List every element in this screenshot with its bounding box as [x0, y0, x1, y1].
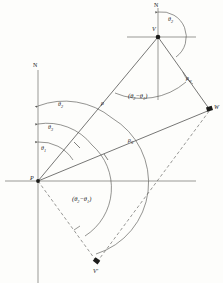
rho-zero-subscript: 0: [131, 140, 133, 145]
point-label-Vprime: V': [93, 268, 98, 274]
tick-on-PW: [104, 154, 108, 160]
segment-P-Vprime: [38, 181, 97, 262]
diff-lower-mid: −θ: [79, 195, 87, 202]
angle-label-theta2-at-P: θ2: [58, 101, 63, 109]
distance-label-rho-zero: ρ0: [128, 137, 133, 145]
diagram-vector-layer: [0, 0, 223, 283]
theta3-subscript: 3: [51, 127, 53, 132]
tick-on-PV: [74, 142, 80, 148]
angle-label-theta1-at-P: θ1: [41, 145, 46, 153]
point-label-W: W: [214, 104, 219, 110]
distance-label-rho-w: ρw: [186, 75, 192, 83]
theta2-at-V-subscript: 2: [171, 19, 173, 24]
rho-w-subscript: w: [189, 78, 192, 83]
diff-upper-close: ): [145, 92, 147, 99]
theta2-subscript: 2: [61, 104, 63, 109]
theta1-subscript: 1: [44, 148, 46, 153]
angle-label-difference-lower: (θ2−θ1): [72, 196, 91, 205]
diff-lower-close: ): [89, 195, 91, 202]
axis-label-north-P: N: [33, 62, 37, 68]
angle-label-theta3-at-P: θ3: [48, 124, 53, 132]
angle-label-theta2-at-V: θ2: [168, 16, 173, 24]
segment-Vprime-W: [97, 110, 210, 262]
diff-upper-mid: −θ: [135, 92, 143, 99]
point-label-P: P: [30, 175, 34, 181]
angle-label-difference-upper: (θ2−θ1): [128, 93, 147, 102]
arc-theta3-at-P: [38, 123, 92, 145]
figure-canvas: P V W V' N N θ2 θ3 θ1 θ2 (θ2−θ1) (θ2−θ1)…: [0, 0, 223, 283]
arc-angle-diff-at-V: [115, 82, 186, 98]
point-label-V: V: [152, 26, 156, 32]
point-marker-P: [36, 179, 40, 183]
tick-on-PVprime: [74, 226, 80, 230]
distance-label-rho: ρ: [101, 100, 104, 106]
axis-label-north-V: N: [154, 2, 158, 8]
point-marker-V: [156, 35, 161, 40]
segment-P-W: [38, 110, 210, 181]
